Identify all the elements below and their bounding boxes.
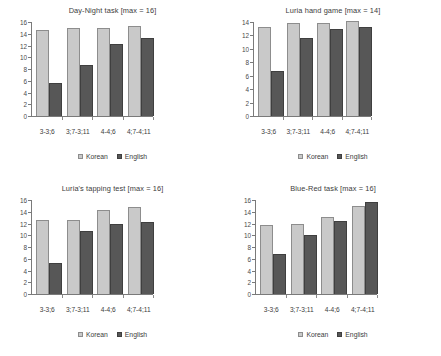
y-axis-tick [28,212,31,213]
bar-group [286,22,315,116]
y-axis-tick [28,294,31,295]
plot-area: 0246810121416 [31,200,153,295]
x-axis-tick-label: 3-3;6 [40,306,55,313]
y-axis-tick [250,35,253,36]
bar-group [126,22,156,116]
bar-english [49,83,62,116]
y-axis-tick [252,294,255,295]
y-axis-tick [28,200,31,201]
chart-title: Blue-Red task [max = 16] [225,184,441,193]
y-axis-tick [28,46,31,47]
y-axis-line [31,200,32,295]
bar-group [95,200,125,294]
y-axis-tick-label: 2 [23,279,27,286]
x-axis-tick [286,295,287,298]
x-axis-tick [342,117,343,120]
x-axis-tick-label: 4;7-4;11 [127,128,151,135]
y-axis-tick [250,22,253,23]
four-panel-bar-chart-figure: Day-Night task [max = 16]3-3;63;7-3;114-… [0,0,441,356]
legend-swatch-english-icon [337,154,342,159]
x-axis-tick-label: 3-3;6 [264,306,279,313]
x-axis-tick-label: 3;7-3;11 [290,306,314,313]
bar-english [110,44,123,116]
legend-label: Korean [86,153,108,160]
legend-swatch-korean-icon [298,154,303,159]
x-axis-tick [62,117,63,120]
y-axis-tick-label: 12 [242,32,249,39]
y-axis-tick [28,104,31,105]
y-axis-tick-label: 8 [247,244,251,251]
y-axis-tick [28,224,31,225]
x-axis-tick-label: 4;7-4;11 [127,306,151,313]
bar-group [256,22,285,116]
x-axis-tick [347,295,348,298]
y-axis-tick-label: 4 [245,86,249,93]
chart-title: Day-Night task [max = 16] [0,6,225,15]
legend-label: English [125,153,147,160]
y-axis-line [31,22,32,117]
legend-swatch-english-icon [117,332,122,337]
legend-item-english[interactable]: English [117,331,147,338]
bar-group [319,200,349,294]
plot-area-wrapper: 3-3;63;7-3;114-4;64;7-4;110246810121416K… [225,200,441,295]
bar-english [304,235,317,294]
x-axis-tick-label: 3-3;6 [261,128,276,135]
bar-group [95,22,125,116]
y-axis-tick [252,247,255,248]
bar-korean [258,27,271,116]
y-axis-tick-label: 12 [20,220,27,227]
legend-swatch-korean-icon [298,332,303,337]
x-axis-tick [153,295,154,298]
x-axis-tick [377,295,378,298]
legend-item-korean[interactable]: Korean [78,331,108,338]
bar-english [80,65,93,116]
y-axis-tick-label: 6 [247,255,251,262]
y-axis-tick [28,57,31,58]
x-axis-tick-label: 3;7-3;11 [286,128,310,135]
bar-group [65,200,95,294]
bar-group [34,22,64,116]
y-axis-tick [252,224,255,225]
y-axis-tick [28,81,31,82]
bar-korean [291,224,304,294]
legend-item-korean[interactable]: Korean [298,331,328,338]
y-axis-tick-label: 0 [245,113,249,120]
bar-english [49,263,62,294]
y-axis-tick-label: 14 [20,30,27,37]
y-axis-tick [28,259,31,260]
bar-english [359,27,372,116]
y-axis-tick-label: 2 [245,99,249,106]
legend-label: English [345,331,367,338]
legend-item-korean[interactable]: Korean [298,153,328,160]
legend-item-korean[interactable]: Korean [78,153,108,160]
y-axis-tick-label: 16 [244,197,251,204]
y-axis-tick-label: 10 [20,54,27,61]
y-axis-tick [252,271,255,272]
x-axis-tick-label: 4;7-4;11 [351,306,375,313]
bar-group [34,200,64,294]
x-axis-tick [123,117,124,120]
y-axis-tick [250,49,253,50]
plot-area-wrapper: 3-3;63;7-3;114-4;64;7-4;110246810121416K… [0,200,225,295]
x-axis-tick-label: 3;7-3;11 [66,306,90,313]
legend-item-english[interactable]: English [337,153,367,160]
y-axis-tick-label: 12 [20,42,27,49]
bar-english [141,38,154,116]
legend-item-english[interactable]: English [117,153,147,160]
bar-group [350,200,380,294]
legend-swatch-korean-icon [78,154,83,159]
legend-swatch-english-icon [337,332,342,337]
legend-item-english[interactable]: English [337,331,367,338]
plot-area: 0246810121416 [255,200,377,295]
y-axis-tick-label: 8 [245,59,249,66]
y-axis-tick-label: 6 [245,72,249,79]
chart-title: Luria's tapping test [max = 16] [0,184,225,193]
y-axis-tick-label: 10 [244,232,251,239]
y-axis-tick-label: 8 [23,66,27,73]
bar-korean [287,23,300,116]
chart-title: Luria hand game [max = 14] [225,6,441,15]
chart-panel: Blue-Red task [max = 16]3-3;63;7-3;114-4… [225,178,441,356]
x-axis-tick-label: 4;7-4;11 [345,128,369,135]
y-axis-tick [250,62,253,63]
y-axis-line [253,22,254,117]
